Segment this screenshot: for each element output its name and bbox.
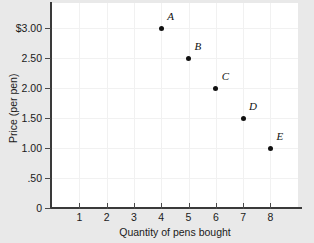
x-tick-label: 3 [122,212,146,223]
y-tick-mark [45,178,51,179]
data-point-label: C [222,71,229,82]
data-point [186,56,191,61]
x-tick-mark [134,203,135,209]
scatter-chart: $3.002.502.001.501.00.500 12345678 ABCDE… [0,0,314,243]
x-tick-mark [189,203,190,209]
y-tick-mark [45,208,51,209]
x-tick-mark [161,203,162,209]
x-tick-label: 5 [177,212,201,223]
x-axis-title: Quantity of pens bought [52,227,298,238]
data-point [213,86,218,91]
y-axis-title: Price (per pen) [8,48,19,168]
x-tick-mark [243,203,244,209]
plot-area [52,3,298,208]
y-tick-mark [45,148,51,149]
gridline-horizontal [52,28,298,29]
x-tick-label: 4 [149,212,173,223]
x-tick-mark [79,203,80,209]
data-point-label: E [276,131,283,142]
y-tick-label: 2.50 [22,53,42,64]
data-point-label: B [195,41,202,52]
x-tick-label: 2 [95,212,119,223]
y-tick-label: 2.00 [22,83,42,94]
data-point-label: A [167,11,174,22]
gridline-horizontal [52,118,298,119]
gridline-horizontal [52,178,298,179]
y-tick-label: $3.00 [16,23,42,34]
gridline-horizontal [52,58,298,59]
x-tick-mark [216,203,217,209]
data-point [268,146,273,151]
data-point-label: D [249,101,257,112]
gridline-horizontal [52,88,298,89]
y-tick-label: .50 [27,173,42,184]
x-tick-label: 6 [204,212,228,223]
x-tick-label: 8 [258,212,282,223]
x-tick-mark [107,203,108,209]
data-point [159,26,164,31]
x-tick-label: 1 [67,212,91,223]
x-axis-line [50,207,302,209]
x-tick-label: 7 [231,212,255,223]
y-tick-mark [45,118,51,119]
x-tick-mark [270,203,271,209]
y-tick-mark [45,58,51,59]
y-tick-label: 0 [36,203,42,214]
y-tick-label: 1.00 [22,143,42,154]
y-tick-mark [45,88,51,89]
y-tick-label: 1.50 [22,113,42,124]
data-point [241,116,246,121]
gridline-horizontal [52,148,298,149]
y-tick-mark [45,28,51,29]
